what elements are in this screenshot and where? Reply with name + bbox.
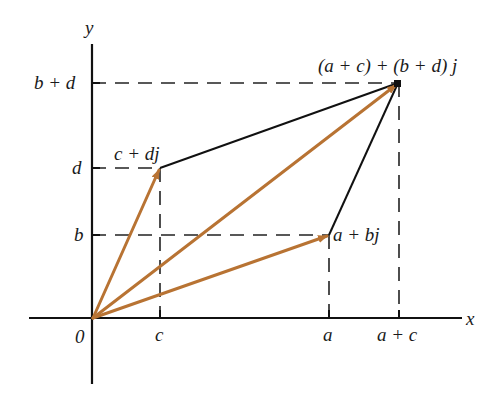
vectors bbox=[93, 85, 396, 318]
point-label-sum: (a + c) + (b + d) j bbox=[318, 55, 457, 77]
labels: y x 0 b + d d b c a a + c c + dj a + bj … bbox=[34, 17, 475, 347]
y-tick-label-d: d bbox=[72, 157, 82, 178]
edge-z2-to-sum bbox=[160, 83, 398, 168]
complex-addition-diagram: y x 0 b + d d b c a a + c c + dj a + bj … bbox=[0, 0, 500, 402]
point-label-z2: c + dj bbox=[114, 143, 160, 164]
x-tick-label-ac: a + c bbox=[377, 324, 418, 345]
x-tick-label-a: a bbox=[323, 324, 333, 345]
y-tick-label-bd: b + d bbox=[34, 72, 76, 93]
vector-z2 bbox=[93, 170, 159, 318]
sum-point-marker bbox=[394, 80, 401, 87]
y-axis-label: y bbox=[83, 17, 94, 38]
x-tick-label-c: c bbox=[155, 324, 164, 345]
x-axis-label: x bbox=[465, 308, 475, 329]
vector-sum bbox=[93, 85, 396, 318]
edge-z1-to-sum bbox=[329, 83, 398, 235]
vector-z1 bbox=[93, 236, 327, 318]
y-tick-label-b: b bbox=[74, 224, 84, 245]
parallelogram-edges bbox=[160, 83, 398, 235]
origin-label: 0 bbox=[75, 326, 85, 347]
point-label-z1: a + bj bbox=[333, 224, 380, 245]
